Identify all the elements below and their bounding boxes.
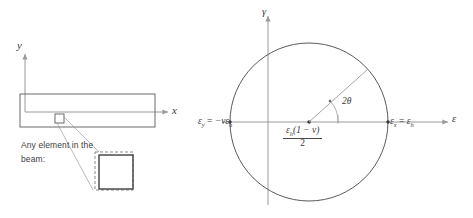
mohr-center-label: εh(1 − ν) 2 bbox=[283, 126, 322, 149]
beam-callout-line-2: beam: bbox=[21, 155, 45, 164]
callout-leader-bottom bbox=[57, 123, 93, 190]
mohr-center-num-term: (1 − ν) bbox=[293, 125, 319, 135]
mohr-right-label-value-subscript: h bbox=[410, 121, 413, 128]
beam-callout-line-1: Any element in the bbox=[21, 141, 93, 150]
mohr-left-label-value-subscript: h bbox=[229, 121, 232, 128]
mohr-angle-arc bbox=[330, 101, 338, 122]
beam-x-axis-label: x bbox=[172, 105, 177, 117]
mohr-radius-line bbox=[309, 69, 368, 122]
enlarged-element-original bbox=[99, 155, 133, 189]
mohr-circle-group bbox=[222, 16, 448, 205]
mohr-epsilon-axis-label: ε bbox=[452, 113, 456, 124]
mohr-left-label-subscript: y bbox=[202, 121, 205, 128]
mohr-gamma-axis-label: γ bbox=[262, 6, 266, 17]
mohr-left-label-value: −νε bbox=[215, 116, 229, 126]
figure-vector-layer bbox=[0, 0, 473, 218]
mohr-angle-arc-head bbox=[329, 100, 332, 103]
figure-canvas: y x Any element in the beam: γ ε εy = −ν… bbox=[0, 0, 473, 218]
beam-y-axis-label: y bbox=[17, 40, 22, 52]
mohr-center-fraction: εh(1 − ν) 2 bbox=[283, 126, 322, 149]
mohr-right-point-label: εx = εh bbox=[390, 117, 414, 129]
mohr-left-label-equals: = bbox=[207, 116, 212, 126]
mohr-left-point-label: εy = −νεh bbox=[198, 117, 232, 129]
mohr-right-label-subscript: x bbox=[394, 121, 397, 128]
mohr-center-denominator: 2 bbox=[283, 139, 322, 149]
beam-diagram-group bbox=[20, 54, 168, 190]
mohr-center-numerator: εh(1 − ν) bbox=[283, 126, 322, 139]
element-square bbox=[55, 114, 64, 123]
beam-rectangle bbox=[20, 94, 155, 127]
mohr-angle-label: 2θ bbox=[342, 97, 351, 107]
mohr-right-label-equals: = bbox=[399, 116, 404, 126]
